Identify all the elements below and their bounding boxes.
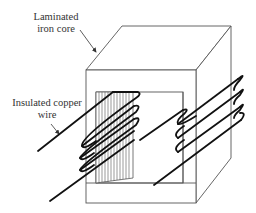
core-callout-arrow [80,30,96,52]
transformer-diagram [0,0,256,213]
wire-callout-arrow [51,124,59,134]
